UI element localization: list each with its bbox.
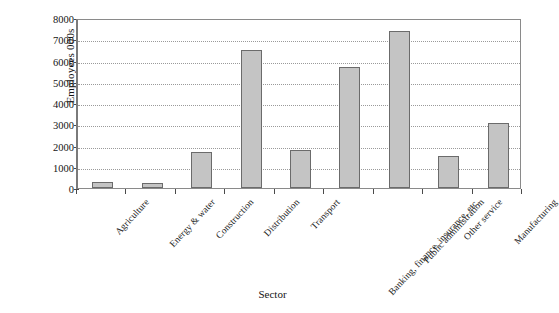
y-axis-ticks: 010002000300040005000600070008000	[30, 19, 74, 189]
x-tick-mark	[422, 189, 423, 194]
bar	[142, 183, 163, 188]
x-tick-mark	[76, 189, 77, 194]
x-category-label: Manufacturing	[513, 197, 559, 246]
bar	[389, 31, 410, 188]
x-category-label: Distribution	[262, 197, 301, 238]
y-tick-label: 2000	[34, 141, 74, 152]
bar	[92, 182, 113, 188]
x-category-label: Transport	[308, 197, 341, 231]
bar	[438, 156, 459, 188]
x-tick-mark	[175, 189, 176, 194]
gridline	[78, 148, 520, 149]
y-tick-label: 7000	[34, 35, 74, 46]
x-tick-mark	[125, 189, 126, 194]
bar	[241, 50, 262, 188]
y-tick-label: 5000	[34, 77, 74, 88]
y-tick-label: 4000	[34, 99, 74, 110]
x-tick-mark	[472, 189, 473, 194]
gridline	[78, 105, 520, 106]
x-tick-mark	[521, 189, 522, 194]
plot-area	[76, 19, 521, 189]
x-tick-mark	[373, 189, 374, 194]
y-tick-label: 0	[34, 184, 74, 195]
x-tick-mark	[274, 189, 275, 194]
bar	[339, 67, 360, 188]
x-tick-mark	[323, 189, 324, 194]
gridline	[78, 126, 520, 127]
bar	[488, 123, 509, 188]
x-category-label: Agriculture	[113, 197, 151, 237]
y-tick-label: 1000	[34, 162, 74, 173]
x-category-label: Energy & water	[168, 197, 218, 249]
x-category-label: Construction	[214, 197, 256, 241]
y-tick-label: 3000	[34, 120, 74, 131]
plot-inner	[78, 20, 520, 188]
x-tick-mark	[224, 189, 225, 194]
y-tick-label: 6000	[34, 56, 74, 67]
gridline	[78, 41, 520, 42]
gridline	[78, 84, 520, 85]
gridline	[78, 63, 520, 64]
y-tick-label: 8000	[34, 14, 74, 25]
bar	[191, 152, 212, 188]
bar	[290, 150, 311, 188]
x-axis-title: Sector	[0, 288, 545, 300]
